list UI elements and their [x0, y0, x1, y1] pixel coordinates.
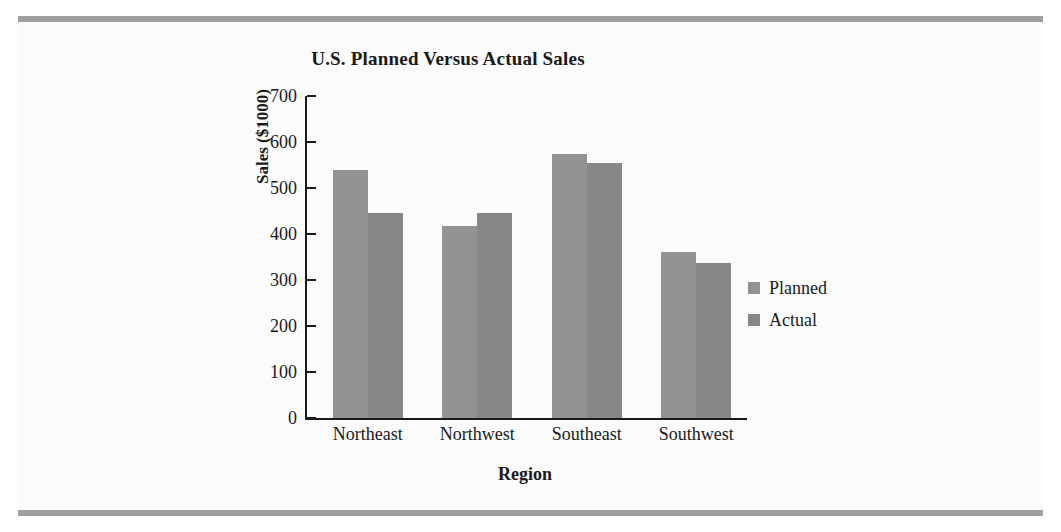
y-axis-tick-label: 100	[237, 363, 297, 381]
bottom-divider-rule	[18, 510, 1043, 516]
bar-group	[552, 96, 622, 418]
y-axis-tick-label: 300	[237, 271, 297, 289]
bar-actual	[587, 163, 622, 418]
bar-planned	[442, 226, 477, 418]
bar-group	[442, 96, 512, 418]
legend-item: Planned	[748, 272, 827, 304]
bar-planned	[552, 154, 587, 418]
bar-group	[661, 96, 731, 418]
bar-planned	[333, 170, 368, 418]
plot-area: 7006005004003002001000 Sales ($1000) Nor…	[305, 96, 745, 418]
y-axis-tick-label: 0	[237, 409, 297, 427]
y-axis-tick-label: 200	[237, 317, 297, 335]
figure-area: U.S. Planned Versus Actual Sales 7006005…	[18, 22, 1043, 510]
legend-item: Actual	[748, 304, 827, 336]
bar-actual	[368, 213, 403, 418]
bar-groups	[307, 96, 745, 418]
legend-swatch-planned	[748, 282, 760, 294]
y-axis-tick-label: 400	[237, 225, 297, 243]
chart-legend: PlannedActual	[748, 272, 827, 336]
bar-actual	[477, 213, 512, 418]
y-axis-title: Sales ($1000)	[253, 89, 273, 184]
x-axis-title: Region	[305, 464, 745, 485]
bar-chart: U.S. Planned Versus Actual Sales 7006005…	[18, 22, 1043, 510]
legend-swatch-actual	[748, 314, 760, 326]
x-axis-line	[305, 418, 747, 420]
legend-label: Actual	[769, 310, 817, 331]
bar-planned	[661, 252, 696, 418]
x-axis-category-label: Southwest	[631, 424, 761, 445]
chart-title: U.S. Planned Versus Actual Sales	[18, 48, 878, 70]
screenshot-page: U.S. Planned Versus Actual Sales 7006005…	[0, 0, 1061, 532]
bar-actual	[696, 263, 731, 418]
legend-label: Planned	[769, 278, 827, 299]
bar-group	[333, 96, 403, 418]
